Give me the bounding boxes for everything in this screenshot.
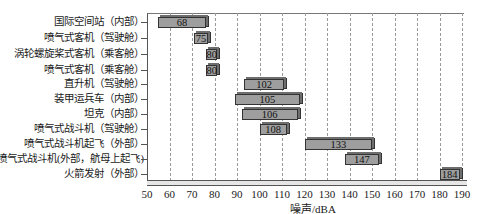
gridline <box>305 13 306 181</box>
y-tick <box>141 84 147 85</box>
x-tick-label: 50 <box>142 188 153 200</box>
range-bar: 105 <box>235 94 300 105</box>
category-label: 涡轮螺旋桨式客机（乘客舱） <box>14 48 144 60</box>
gridline <box>327 13 328 181</box>
category-label: 喷气式客机（驾驶舱） <box>44 32 144 44</box>
range-bar: 133 <box>305 139 373 150</box>
x-tick-label: 120 <box>296 188 313 200</box>
range-bar: 80 <box>206 65 217 76</box>
y-tick <box>141 38 147 39</box>
x-tick-label: 140 <box>341 188 358 200</box>
category-label: 喷气式客机（乘客舱） <box>44 64 144 76</box>
category-label: 喷气式战斗机（驾驶舱） <box>34 123 144 135</box>
x-tick-label: 130 <box>319 188 336 200</box>
range-bar: 184 <box>440 169 460 180</box>
gridline <box>440 13 441 181</box>
x-tick-label: 70 <box>187 188 198 200</box>
x-tick-label: 90 <box>232 188 243 200</box>
x-tick-label: 110 <box>274 188 290 200</box>
y-tick <box>141 54 147 55</box>
gridline <box>192 13 193 181</box>
x-tick-label: 150 <box>364 188 381 200</box>
x-axis-title: 噪声/dBA <box>290 200 336 214</box>
gridline <box>215 13 216 181</box>
x-tick-label: 60 <box>164 188 175 200</box>
range-bar: 75 <box>194 33 208 44</box>
x-tick-label: 100 <box>251 188 268 200</box>
gridline <box>170 13 171 181</box>
x-tick-label: 80 <box>209 188 220 200</box>
range-bar: 147 <box>345 154 379 165</box>
category-label: 装甲运兵车（内部） <box>54 93 144 105</box>
category-label: 直升机（驾驶舱） <box>64 78 144 90</box>
x-axis-line <box>147 180 467 186</box>
range-bar: 68 <box>158 17 205 28</box>
x-tick-label: 170 <box>409 188 426 200</box>
y-tick <box>141 22 147 23</box>
x-tick-label: 160 <box>386 188 403 200</box>
gridline <box>395 13 396 181</box>
category-label: 坦克（内部） <box>84 108 144 120</box>
noise-level-chart: 5060708090100110120130140150160170180190… <box>0 0 477 214</box>
range-bar: 102 <box>244 79 285 90</box>
y-tick <box>141 70 147 71</box>
category-label: 喷气式战斗机(外部，航母上起飞) <box>0 153 144 165</box>
y-tick <box>141 129 147 130</box>
y-tick <box>141 174 147 175</box>
y-tick <box>141 114 147 115</box>
gridline <box>417 13 418 181</box>
category-label: 火箭发射（外部） <box>64 168 144 180</box>
gridline <box>462 13 463 181</box>
y-tick <box>141 144 147 145</box>
x-tick-label: 180 <box>431 188 448 200</box>
category-label: 喷气式战斗机起飞（外部） <box>24 138 144 150</box>
category-label: 国际空间站（内部） <box>54 16 144 28</box>
range-bar: 108 <box>260 124 287 135</box>
y-tick <box>141 99 147 100</box>
range-bar: 80 <box>206 49 217 60</box>
y-tick <box>141 159 147 160</box>
range-bar: 106 <box>242 109 298 120</box>
x-tick-label: 190 <box>454 188 471 200</box>
